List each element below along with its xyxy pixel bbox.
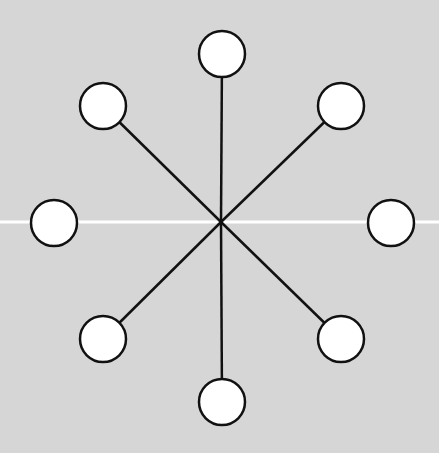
node-left (31, 200, 77, 246)
node-bottom (199, 379, 245, 425)
node-top-right (318, 83, 364, 129)
diagram-canvas (0, 0, 439, 453)
edge-bottom-right (221, 222, 341, 339)
node-bottom-left (80, 316, 126, 362)
edge-bottom (221, 222, 222, 402)
edge-top (221, 54, 222, 222)
edge-top-left (103, 106, 221, 222)
node-top-left (80, 83, 126, 129)
node-top (199, 31, 245, 77)
node-right (368, 200, 414, 246)
edge-top-right (221, 106, 341, 222)
star-graph (0, 0, 439, 453)
edge-bottom-left (103, 222, 221, 339)
node-bottom-right (318, 316, 364, 362)
